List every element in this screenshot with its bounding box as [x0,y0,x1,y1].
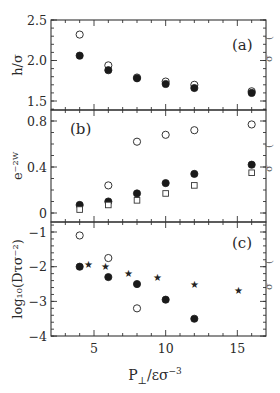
y-axis-label: e⁻²ᵂ [10,151,25,180]
y-tick-label: 2.0 [27,53,47,68]
data-point [133,190,140,197]
data-point [162,131,169,138]
data-point [248,121,255,128]
data-point [133,138,140,145]
edge-glyph: ( [263,144,274,148]
y-tick-label: 0.8 [27,114,47,129]
adjacent-figure-edge: (σ(σ(σ [263,36,274,290]
data-point [76,232,83,239]
panel-a: 1.52.02.5(a)h/σ [10,13,266,111]
data-point [249,170,255,176]
data-point: ★ [190,279,199,290]
data-point: ★ [101,261,110,272]
edge-glyph: ( [263,260,274,264]
data-point [133,305,140,312]
panel-label: (b) [70,120,91,138]
data-point: ★ [234,285,243,296]
x-tick-label: 10 [158,341,174,356]
data-point: ★ [153,272,162,283]
stacked-scatter-figure: 1.52.02.5(a)h/σ00.40.8(b)e⁻²ᵂ−1−2−3−4(c)… [0,0,280,393]
data-point [248,89,255,96]
data-point [163,191,169,197]
data-point [106,202,112,208]
panel-b: 00.40.8(b)e⁻²ᵂ [10,110,266,223]
data-point [133,75,140,82]
y-tick-label: −1 [29,225,47,240]
figure-canvas: 1.52.02.5(a)h/σ00.40.8(b)e⁻²ᵂ−1−2−3−4(c)… [0,0,280,393]
y-tick-label: −3 [29,294,47,309]
data-point [191,315,198,322]
edge-glyph: σ [263,165,274,172]
data-point [192,183,198,189]
data-point [133,280,140,287]
data-point [162,180,169,187]
data-point [76,31,83,38]
data-point [191,127,198,134]
edge-glyph: σ [263,55,274,62]
y-tick-label: −2 [29,259,47,274]
data-point [162,80,169,87]
panel-c: −1−2−3−4(c)log₁₀(Dτσ⁻²)★★★★★★ [10,222,266,344]
data-point [134,198,140,204]
data-point [77,207,83,213]
y-tick-label: −4 [29,329,47,344]
panel-label: (a) [232,36,253,54]
data-point [105,182,112,189]
series-filled-circle [76,161,255,208]
data-point: ★ [124,268,133,279]
series-filled-circle [76,52,255,96]
shared-x-axis: 51015 [90,341,245,356]
x-axis-label: P⊥/εσ−3 [128,366,182,386]
x-tick-label: 5 [90,341,98,356]
series-open-circle [105,121,256,189]
y-tick-label: 2.5 [27,13,47,28]
y-axis-label: h/σ [10,54,25,76]
y-tick-label: 0.4 [27,160,47,175]
panels: 1.52.02.5(a)h/σ00.40.8(b)e⁻²ᵂ−1−2−3−4(c)… [10,13,266,344]
data-point [105,67,112,74]
data-point [76,263,83,270]
x-tick-label: 15 [229,341,245,356]
series-filled-circle [76,263,198,322]
data-point [191,84,198,91]
data-point [248,161,255,168]
data-point [162,296,169,303]
data-point [191,170,198,177]
panel-label: (c) [232,234,252,252]
edge-glyph: σ [263,283,274,290]
data-point [76,52,83,59]
data-point: ★ [84,259,93,270]
y-axis-label: log₁₀(Dτσ⁻²) [10,239,25,318]
series-open-square [77,170,255,212]
y-tick-label: 0 [39,206,47,221]
data-point [105,274,112,281]
y-tick-label: 1.5 [27,94,47,109]
edge-glyph: ( [263,36,274,40]
